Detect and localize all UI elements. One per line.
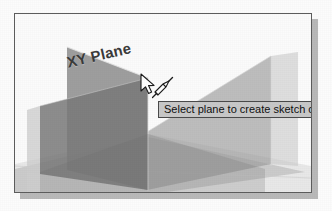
viewport-clip-area: XY Plane Select plane to create sketch o… (15, 14, 311, 192)
tooltip-select-plane: Select plane to create sketch or (158, 101, 311, 118)
tooltip-text: Select plane to create sketch or (164, 102, 311, 117)
3d-model-viewport[interactable]: XY Plane Select plane to create sketch o… (14, 13, 312, 193)
